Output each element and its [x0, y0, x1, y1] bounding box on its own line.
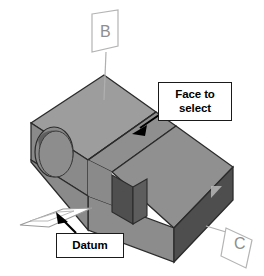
datum-flag-b-label: B [100, 23, 111, 41]
callout-datum-line1: Datum [57, 238, 123, 252]
isometric-part-drawing [0, 0, 264, 276]
hole-inner-ellipse [39, 131, 73, 177]
callout-face-to-select[interactable]: Face to select [158, 82, 232, 121]
callout-face-line1: Face to [159, 87, 231, 101]
face-slot-back-wall[interactable] [133, 179, 147, 224]
callout-face-line2: select [159, 101, 231, 115]
figure-canvas: Face to select Datum B C [0, 0, 264, 276]
flag-c-leader [206, 226, 226, 232]
datum-flag-c-label: C [234, 235, 246, 253]
callout-datum[interactable]: Datum [56, 233, 124, 258]
